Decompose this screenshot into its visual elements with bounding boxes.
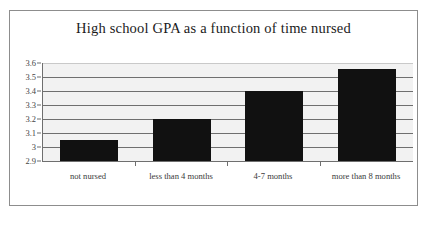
- y-axis: 3.63.53.43.33.23.132.9: [10, 63, 40, 161]
- y-tick-mark: [37, 147, 41, 148]
- y-tick-label: 3.6: [25, 58, 36, 68]
- x-tick-label: 4-7 months: [254, 171, 293, 181]
- x-tick-mark: [320, 162, 321, 166]
- y-tick-label: 3.5: [25, 72, 36, 82]
- chart-title: High school GPA as a function of time nu…: [10, 20, 417, 37]
- y-tick-mark: [37, 91, 41, 92]
- bar: [245, 91, 303, 161]
- y-tick-mark: [37, 161, 41, 162]
- y-tick-label: 3.2: [25, 114, 36, 124]
- bar: [338, 69, 396, 161]
- x-tick-label: less than 4 months: [149, 171, 213, 181]
- x-tick-mark: [227, 162, 228, 166]
- y-tick-mark: [37, 77, 41, 78]
- bar: [60, 140, 118, 161]
- bar-series: [43, 63, 413, 161]
- y-tick-label: 3.4: [25, 86, 36, 96]
- y-tick-mark: [37, 105, 41, 106]
- bar: [153, 119, 211, 161]
- y-tick-mark: [37, 133, 41, 134]
- x-tick-label: not nursed: [70, 171, 106, 181]
- chart-figure: High school GPA as a function of time nu…: [9, 10, 418, 206]
- x-tick-label: more than 8 months: [332, 171, 401, 181]
- y-tick-mark: [37, 63, 41, 64]
- y-tick-label: 2.9: [25, 156, 36, 166]
- plot-area: [42, 63, 413, 162]
- y-tick-label: 3.1: [25, 128, 36, 138]
- y-tick-mark: [37, 119, 41, 120]
- y-tick-label: 3.3: [25, 100, 36, 110]
- x-axis: not nursedless than 4 months4-7 monthsmo…: [42, 162, 412, 192]
- x-tick-mark: [135, 162, 136, 166]
- y-tick-label: 3: [32, 142, 36, 152]
